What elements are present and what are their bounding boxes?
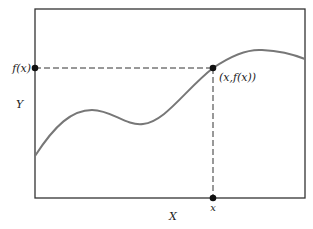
x-axis-point — [210, 195, 217, 202]
x-tick-label: x — [210, 202, 216, 213]
fx-axis-label: f(x) — [11, 62, 31, 75]
fx-axis-point — [32, 65, 39, 72]
x-axis-label: X — [168, 210, 178, 223]
point-label: (x,f(x)) — [219, 71, 256, 84]
y-axis-label: Y — [16, 98, 25, 111]
plot-frame — [35, 9, 305, 198]
function-graph-diagram: f(x) (x,f(x)) Y X x — [0, 0, 313, 229]
function-curve — [35, 50, 305, 156]
curve-point — [210, 65, 217, 72]
